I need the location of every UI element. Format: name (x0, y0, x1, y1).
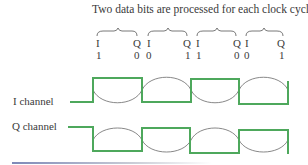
bottom-divider (12, 162, 212, 164)
brace-group-4 (246, 28, 283, 36)
brace-group-2 (148, 28, 187, 36)
brace-group-3 (197, 28, 236, 36)
waveform-diagram (0, 0, 308, 165)
bit-group-braces (97, 28, 283, 36)
i-channel-square-wave (70, 78, 288, 104)
brace-group-1 (97, 28, 137, 36)
